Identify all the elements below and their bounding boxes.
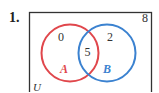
universe-label: U (33, 81, 42, 92)
set-a-label: A (59, 62, 68, 76)
region-intersection-count: 5 (85, 45, 91, 59)
set-b-label: B (102, 62, 111, 76)
region-outside-count: 8 (142, 11, 148, 25)
region-b-only-count: 2 (107, 30, 113, 44)
venn-diagram: 0 5 2 8 A B U (0, 0, 159, 92)
region-a-only-count: 0 (58, 30, 64, 44)
universe-box (30, 13, 152, 93)
